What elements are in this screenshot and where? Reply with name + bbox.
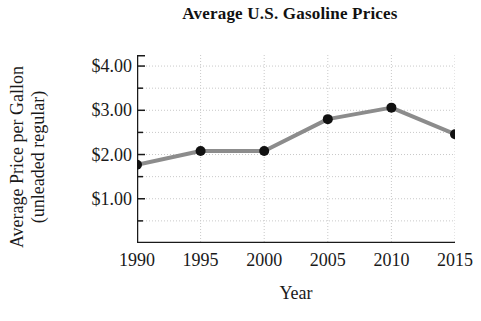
- x-tick-label: 1995: [170, 249, 232, 271]
- chart-title: Average U.S. Gasoline Prices: [120, 4, 460, 24]
- y-tick-label: $2.00: [58, 146, 132, 164]
- data-point-marker[interactable]: [196, 146, 206, 156]
- major-vertical-gridlines: [137, 55, 455, 243]
- data-point-marker[interactable]: [386, 103, 396, 113]
- y-tick-label: $4.00: [58, 57, 132, 75]
- y-tick-label: $1.00: [58, 190, 132, 208]
- plot-svg: [137, 55, 455, 243]
- x-tick-label: 1990: [106, 249, 168, 271]
- data-point-marker[interactable]: [323, 114, 333, 124]
- data-point-marker[interactable]: [137, 160, 142, 170]
- x-tick-label: 2000: [233, 249, 295, 271]
- x-axis-title: Year: [137, 283, 455, 304]
- axis-tick-marks: [137, 56, 455, 243]
- y-axis-title: Average Price per Gallon (unleaded regul…: [7, 32, 51, 282]
- data-point-marker[interactable]: [259, 146, 269, 156]
- gasoline-price-chart-figure: Average U.S. Gasoline Prices Average Pri…: [0, 0, 481, 321]
- plot-area: [137, 55, 455, 243]
- x-axis-tick-labels: 199019952000200520102015: [137, 249, 455, 275]
- axis-lines: [137, 55, 455, 243]
- x-tick-label: 2005: [297, 249, 359, 271]
- series-polyline: [137, 108, 455, 165]
- x-tick-label: 2010: [360, 249, 422, 271]
- data-series-line: [137, 108, 455, 165]
- y-axis-title-line-1: Average Price per Gallon: [7, 32, 28, 282]
- y-tick-label: $3.00: [58, 101, 132, 119]
- y-axis-tick-labels: $1.00$2.00$3.00$4.00: [56, 0, 132, 321]
- x-tick-label: 2015: [424, 249, 481, 271]
- y-axis-title-line-2: (unleaded regular): [28, 32, 49, 282]
